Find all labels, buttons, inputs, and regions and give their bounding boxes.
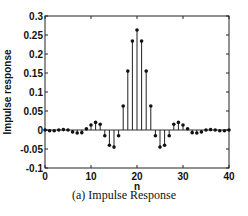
- stem-marker: [200, 130, 204, 134]
- stem-marker: [181, 123, 185, 127]
- stem-marker: [140, 39, 144, 43]
- axis-labels: -0.1-0.0500.050.10.150.20.250.3010203040…: [2, 11, 235, 193]
- y-tick-label: 0.3: [29, 11, 43, 22]
- stem-marker: [75, 131, 79, 135]
- stem-marker: [52, 129, 56, 133]
- stem-marker: [218, 129, 222, 133]
- stem-marker: [149, 104, 153, 108]
- stem-plot: -0.1-0.0500.050.10.150.20.250.3010203040…: [0, 0, 248, 216]
- stem-marker: [195, 131, 199, 135]
- stem-marker: [48, 129, 52, 133]
- stem-marker: [154, 134, 158, 138]
- y-tick-label: -0.1: [26, 163, 44, 174]
- stem-marker: [213, 128, 217, 132]
- stem-marker: [167, 134, 171, 138]
- stem-marker: [98, 123, 102, 127]
- stem-marker: [177, 121, 181, 125]
- stem-marker: [57, 128, 61, 132]
- stem-marker: [85, 127, 89, 131]
- stem-marker: [204, 128, 208, 132]
- y-tick-label: 0.1: [29, 87, 43, 98]
- stem-marker: [89, 123, 93, 127]
- stem-marker: [131, 39, 135, 43]
- stem-marker: [71, 130, 75, 134]
- stem-series: [43, 28, 231, 149]
- x-tick-label: 30: [177, 171, 189, 182]
- y-tick-label: 0.15: [24, 68, 44, 79]
- y-tick-label: 0.05: [24, 106, 44, 117]
- stem-marker: [108, 143, 112, 147]
- figure-caption: (a) Impulse Response: [0, 188, 248, 203]
- stem-marker: [227, 128, 231, 132]
- stem-marker: [80, 131, 84, 135]
- stem-marker: [209, 128, 213, 132]
- stem-marker: [135, 28, 139, 32]
- y-tick-label: 0.2: [29, 49, 43, 60]
- stem-marker: [223, 129, 227, 133]
- stem-marker: [144, 69, 148, 73]
- stem-marker: [43, 128, 47, 132]
- x-tick-label: 40: [223, 171, 235, 182]
- x-tick-label: 0: [42, 171, 48, 182]
- stem-marker: [112, 145, 116, 149]
- stem-marker: [94, 121, 98, 125]
- stem-marker: [172, 123, 176, 127]
- stem-marker: [158, 145, 162, 149]
- y-tick-label: 0: [37, 125, 43, 136]
- stem-marker: [190, 131, 194, 135]
- stem-marker: [62, 128, 66, 132]
- stem-marker: [121, 104, 125, 108]
- stem-marker: [117, 134, 121, 138]
- x-tick-label: 10: [85, 171, 97, 182]
- stem-marker: [66, 128, 70, 132]
- stem-marker: [163, 143, 167, 147]
- y-axis-label: Impulse response: [2, 49, 13, 134]
- stem-marker: [103, 134, 107, 138]
- y-tick-label: -0.05: [20, 144, 43, 155]
- stem-marker: [126, 69, 130, 73]
- stem-marker: [186, 127, 190, 131]
- y-tick-label: 0.25: [24, 30, 44, 41]
